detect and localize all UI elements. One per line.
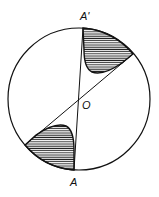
label-a-prime: A': [80, 10, 89, 22]
shaded-region-top: [83, 28, 133, 73]
geometry: [0, 0, 159, 197]
diagram: A' A O: [0, 0, 159, 197]
label-o: O: [82, 99, 91, 111]
shaded-region-bottom: [25, 125, 74, 170]
diameter: [25, 54, 133, 145]
label-a: A: [70, 176, 77, 188]
